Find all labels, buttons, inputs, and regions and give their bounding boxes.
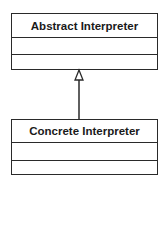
- attributes-compartment: [12, 143, 157, 161]
- hollow-triangle-arrowhead-icon: [75, 70, 83, 80]
- concrete-interpreter-class: Concrete Interpreter: [11, 119, 158, 175]
- operations-compartment: [12, 161, 157, 174]
- class-name: Concrete Interpreter: [12, 120, 157, 143]
